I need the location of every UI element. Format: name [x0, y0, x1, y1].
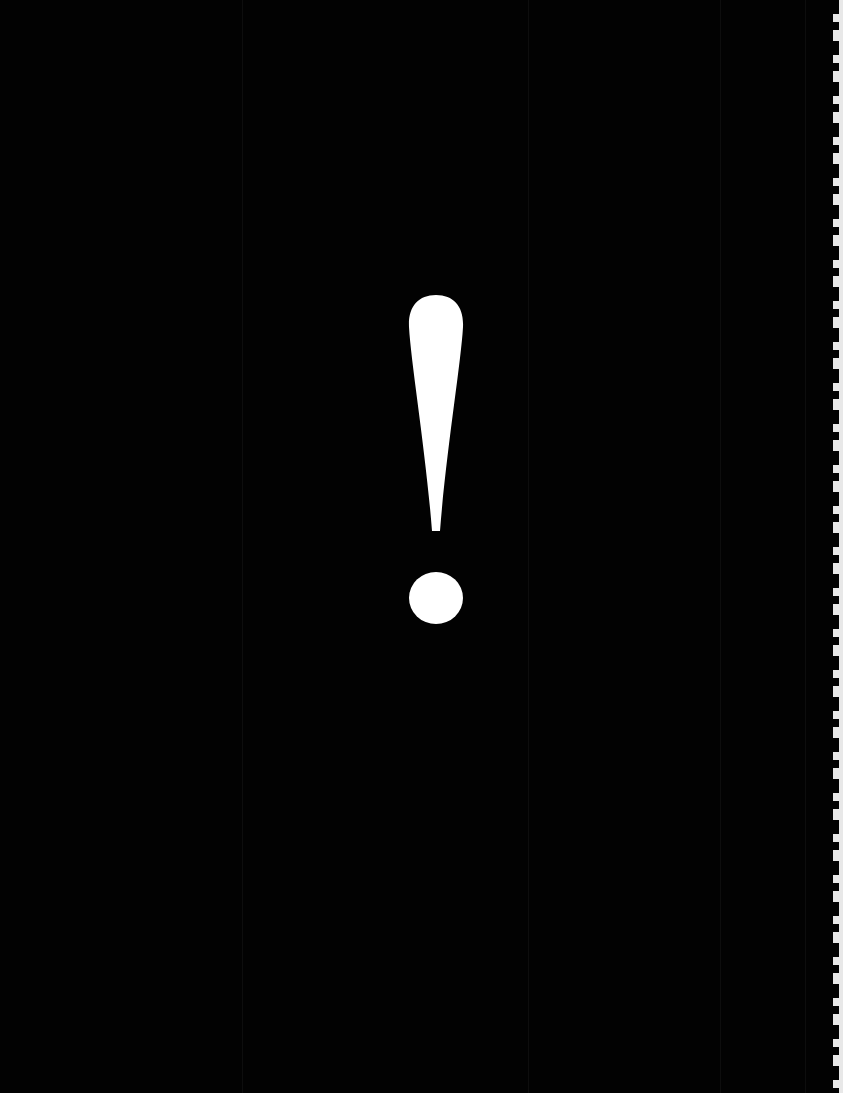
exclamation-icon — [404, 293, 468, 633]
torn-page-edge-shadow — [831, 0, 839, 1093]
scan-streak — [720, 0, 721, 1093]
scanned-page — [0, 0, 843, 1093]
scan-streak — [528, 0, 529, 1093]
scan-streak — [805, 0, 806, 1093]
scan-streak — [242, 0, 243, 1093]
